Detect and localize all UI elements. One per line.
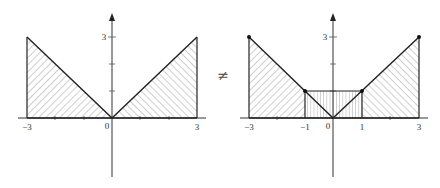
x-label-0: 0 — [326, 121, 331, 131]
x-label-neg1: −1 — [300, 122, 310, 132]
point-1-1 — [360, 89, 364, 93]
y-label-3: 3 — [102, 32, 107, 42]
left-plot: −3 0 3 3 — [18, 13, 206, 177]
y-axis-arrow-icon — [330, 13, 336, 21]
left-trapezoid-region — [249, 37, 305, 118]
point-neg3-3 — [247, 35, 251, 39]
y-axis-arrow-icon — [109, 13, 115, 21]
x-label-1: 1 — [360, 122, 365, 132]
right-trapezoid-region — [362, 37, 419, 118]
x-label-3: 3 — [195, 122, 200, 132]
not-equal-symbol: ≠ — [217, 67, 229, 83]
y-label-3: 3 — [323, 32, 328, 42]
x-label-0: 0 — [105, 121, 110, 131]
diagram-canvas: −3 0 3 3 ≠ — [0, 0, 440, 188]
point-neg1-1 — [303, 89, 307, 93]
right-plot: −3 −1 0 1 3 3 — [240, 13, 428, 177]
x-label-neg3: −3 — [244, 122, 254, 132]
x-label-neg3: −3 — [22, 122, 32, 132]
point-3-3 — [417, 35, 421, 39]
x-label-3: 3 — [417, 122, 422, 132]
